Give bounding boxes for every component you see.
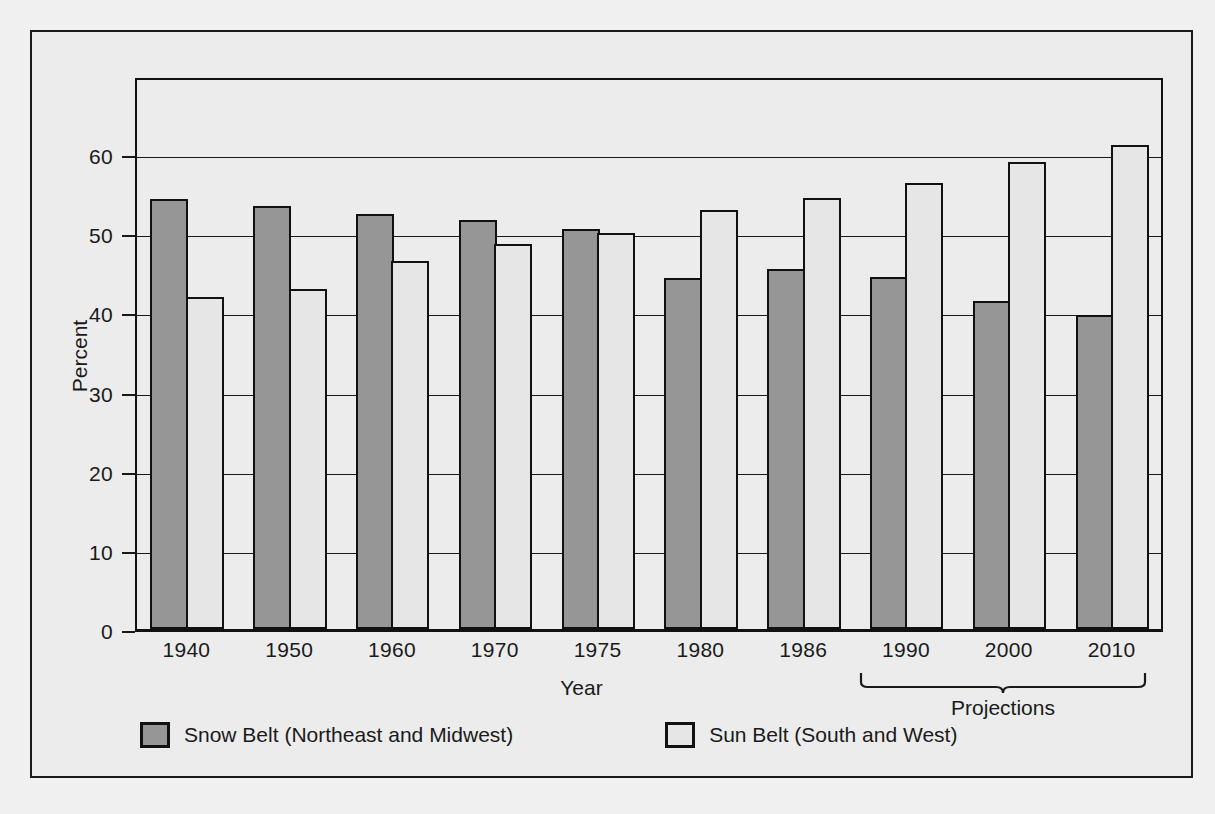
bar-group (973, 80, 1049, 629)
bar-group (253, 80, 329, 629)
y-axis-tick-label: 50 (89, 224, 113, 248)
bar-snow-belt[interactable] (562, 229, 600, 629)
y-axis-tick-mark (122, 314, 135, 316)
bar-snow-belt[interactable] (1076, 315, 1114, 629)
legend-item[interactable]: Sun Belt (South and West) (665, 722, 957, 748)
bar-sun-belt[interactable] (803, 198, 841, 629)
bar-group (1076, 80, 1152, 629)
bar-sun-belt[interactable] (1111, 145, 1149, 629)
bar-snow-belt[interactable] (767, 269, 805, 629)
x-axis-tick-label: 1980 (676, 638, 724, 662)
bar-sun-belt[interactable] (186, 297, 224, 629)
y-axis-tick-mark (122, 473, 135, 475)
x-axis-tick-label: 1986 (779, 638, 827, 662)
x-axis-tick-label: 1960 (368, 638, 416, 662)
y-axis-tick-label: 60 (89, 145, 113, 169)
y-axis-tick-label: 30 (89, 383, 113, 407)
y-axis-title: Percent (68, 320, 92, 392)
bar-sun-belt[interactable] (289, 289, 327, 629)
x-axis-tick-label: 1950 (265, 638, 313, 662)
bar-snow-belt[interactable] (150, 199, 188, 629)
y-axis-tick-label: 0 (101, 620, 113, 644)
x-axis-tick-label: 1940 (162, 638, 210, 662)
x-axis-tick-label: 1970 (471, 638, 519, 662)
y-axis-tick-mark (122, 394, 135, 396)
bar-snow-belt[interactable] (459, 220, 497, 629)
bar-snow-belt[interactable] (356, 214, 394, 630)
y-axis-tick-mark (122, 156, 135, 158)
projections-label: Projections (858, 696, 1148, 720)
y-axis-tick-label: 40 (89, 303, 113, 327)
bar-group (767, 80, 843, 629)
bar-group (870, 80, 946, 629)
x-axis-tick-label: 1975 (574, 638, 622, 662)
x-axis-tick-label: 1990 (882, 638, 930, 662)
y-axis-tick-mark (122, 235, 135, 237)
x-axis-tick-label: 2010 (1088, 638, 1136, 662)
y-axis-tick-label: 20 (89, 462, 113, 486)
projections-bracket-icon (858, 672, 1148, 694)
bar-group (150, 80, 226, 629)
x-axis-tick-labels: 1940195019601970197519801986199020002010 (135, 638, 1163, 668)
plot-area (135, 78, 1163, 632)
y-axis: Percent 0102030405060 (0, 78, 135, 634)
x-axis-tick-label: 2000 (985, 638, 1033, 662)
y-axis-tick-mark (122, 631, 135, 633)
bar-snow-belt[interactable] (870, 277, 908, 629)
legend-swatch (665, 722, 695, 748)
bar-sun-belt[interactable] (700, 210, 738, 629)
chart-page: Percent 0102030405060 194019501960197019… (0, 0, 1215, 814)
bar-sun-belt[interactable] (494, 244, 532, 629)
bar-snow-belt[interactable] (973, 301, 1011, 629)
legend-swatch (140, 722, 170, 748)
bar-group (459, 80, 535, 629)
bar-group (356, 80, 432, 629)
legend-label: Snow Belt (Northeast and Midwest) (184, 723, 513, 747)
plot-inner (137, 80, 1161, 629)
bar-sun-belt[interactable] (905, 183, 943, 629)
legend: Snow Belt (Northeast and Midwest)Sun Bel… (140, 722, 957, 748)
bar-sun-belt[interactable] (1008, 162, 1046, 629)
y-axis-tick-label: 10 (89, 541, 113, 565)
legend-item[interactable]: Snow Belt (Northeast and Midwest) (140, 722, 513, 748)
y-axis-tick-mark (122, 552, 135, 554)
bar-snow-belt[interactable] (664, 278, 702, 629)
bar-sun-belt[interactable] (597, 233, 635, 630)
bar-group (562, 80, 638, 629)
bar-snow-belt[interactable] (253, 206, 291, 629)
bar-sun-belt[interactable] (391, 261, 429, 629)
bar-group (664, 80, 740, 629)
legend-label: Sun Belt (South and West) (709, 723, 957, 747)
